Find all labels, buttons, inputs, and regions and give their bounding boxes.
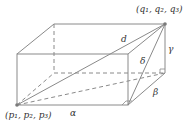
label-gamma: γ bbox=[168, 45, 173, 54]
face-diagonal-delta bbox=[128, 24, 165, 105]
hidden-bottom-diagonal bbox=[17, 73, 165, 105]
front-face bbox=[17, 54, 128, 105]
bottom-right-edge-beta bbox=[128, 73, 165, 105]
right-angle-marker-back bbox=[160, 69, 165, 73]
label-delta: δ bbox=[140, 57, 145, 66]
top-right-edge bbox=[128, 24, 165, 54]
point-p bbox=[15, 103, 19, 107]
label-d: d bbox=[121, 35, 127, 44]
top-left-edge bbox=[17, 24, 54, 54]
label-alpha: α bbox=[70, 109, 76, 118]
hidden-bottom-left-edge bbox=[17, 73, 54, 105]
label-beta: β bbox=[153, 88, 158, 97]
label-q-point: (q₁, q₂, q₃) bbox=[136, 5, 183, 14]
point-q bbox=[163, 22, 167, 26]
label-p-point: (p₁, p₂, p₃) bbox=[5, 111, 52, 120]
